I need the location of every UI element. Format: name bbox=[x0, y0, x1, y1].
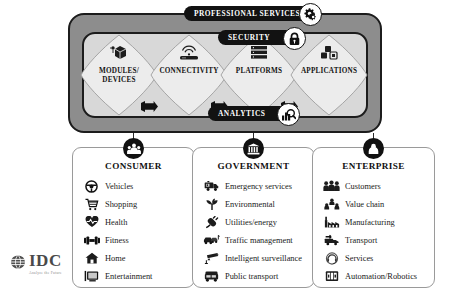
chip-cube-icon bbox=[80, 44, 158, 61]
item-label: Manufacturing bbox=[345, 218, 395, 227]
list-item[interactable]: Entertainment bbox=[73, 267, 194, 285]
item-label: Environmental bbox=[225, 200, 275, 209]
government-building-icon bbox=[243, 138, 264, 159]
hierarchy-people-icon bbox=[322, 197, 341, 212]
list-item[interactable]: Public transport bbox=[193, 267, 314, 285]
segment-box-enterprise[interactable]: ENTERPRISE Customers bbox=[312, 147, 435, 288]
item-label: Entertainment bbox=[105, 272, 152, 281]
list-item[interactable]: Automation/Robotics bbox=[313, 267, 434, 285]
item-label: Utilities/energy bbox=[225, 218, 277, 227]
factory-icon bbox=[322, 215, 341, 230]
item-label: Vehicles bbox=[105, 182, 133, 191]
item-label: Value chain bbox=[345, 200, 384, 209]
list-item[interactable]: Intelligent surveillance bbox=[193, 249, 314, 267]
list-item[interactable]: Emergency services bbox=[193, 177, 314, 195]
dumbbell-icon bbox=[82, 233, 101, 248]
group-people-icon bbox=[322, 179, 341, 194]
list-item[interactable]: Shopping bbox=[73, 195, 194, 213]
item-label: Fitness bbox=[105, 236, 129, 245]
item-label: Shopping bbox=[105, 200, 137, 209]
banner-analytics[interactable]: ANALYTICS bbox=[208, 106, 298, 121]
item-label: Services bbox=[345, 254, 373, 263]
list-item[interactable]: Utilities/energy bbox=[193, 213, 314, 231]
television-icon bbox=[82, 269, 101, 284]
power-plug-icon bbox=[202, 215, 221, 230]
segment-item-list: Customers Value chain bbox=[313, 171, 434, 285]
item-label: Emergency services bbox=[225, 182, 292, 191]
item-label: Intelligent surveillance bbox=[225, 254, 302, 263]
segment-item-list: Emergency services Environmental bbox=[193, 171, 314, 285]
item-label: Transport bbox=[345, 236, 377, 245]
item-label: Health bbox=[105, 218, 127, 227]
ambulance-icon bbox=[202, 179, 221, 194]
idc-logo: IDC Analyze the Future bbox=[10, 252, 62, 275]
banner-label: ANALYTICS bbox=[218, 109, 265, 118]
list-item[interactable]: Services bbox=[313, 249, 434, 267]
list-item[interactable]: Manufacturing bbox=[313, 213, 434, 231]
family-people-icon bbox=[123, 138, 144, 159]
item-label: Home bbox=[105, 254, 125, 263]
banner-label: PROFESSIONAL SERVICES bbox=[194, 9, 300, 18]
bus-icon bbox=[202, 269, 221, 284]
house-icon bbox=[82, 251, 101, 266]
list-item[interactable]: Environmental bbox=[193, 195, 314, 213]
idc-tagline: Analyze the Future bbox=[29, 271, 62, 275]
item-label: Automation/Robotics bbox=[345, 272, 417, 281]
list-item[interactable]: Customers bbox=[313, 177, 434, 195]
list-item[interactable]: Traffic management bbox=[193, 231, 314, 249]
heart-pulse-icon bbox=[82, 215, 101, 230]
padlock-icon bbox=[283, 27, 306, 50]
list-item[interactable]: Fitness bbox=[73, 231, 194, 249]
chart-magnifier-icon bbox=[277, 103, 300, 126]
idc-wordmark: IDC bbox=[29, 251, 62, 270]
headset-support-icon bbox=[322, 251, 341, 266]
banner-label: SECURITY bbox=[228, 33, 270, 42]
segment-box-government[interactable]: GOVERNMENT Emergency services bbox=[192, 147, 315, 288]
steering-wheel-icon bbox=[82, 179, 101, 194]
security-camera-icon bbox=[202, 251, 221, 266]
banner-security[interactable]: SECURITY bbox=[218, 30, 304, 45]
traffic-cars-icon bbox=[202, 233, 221, 248]
robot-icon bbox=[322, 269, 341, 284]
item-label: Customers bbox=[345, 182, 381, 191]
list-item[interactable]: Value chain bbox=[313, 195, 434, 213]
pillar-label: APPLICATIONS bbox=[286, 67, 372, 76]
item-label: Traffic management bbox=[225, 236, 293, 245]
item-label: Public transport bbox=[225, 272, 278, 281]
list-item[interactable]: Home bbox=[73, 249, 194, 267]
list-item[interactable]: Vehicles bbox=[73, 177, 194, 195]
diagram-canvas: MODULES/ DEVICES C bbox=[0, 0, 450, 295]
briefcase-person-icon bbox=[363, 138, 384, 159]
banner-professional-services[interactable]: PROFESSIONAL SERVICES bbox=[184, 6, 320, 21]
right-arrow-icon bbox=[141, 98, 158, 109]
list-item[interactable]: Transport bbox=[313, 231, 434, 249]
wifi-router-icon bbox=[150, 44, 228, 61]
idc-globe-icon bbox=[10, 252, 26, 270]
segment-item-list: Vehicles Shopping bbox=[73, 171, 194, 285]
plant-leaf-icon bbox=[202, 197, 221, 212]
list-item[interactable]: Health bbox=[73, 213, 194, 231]
segment-box-consumer[interactable]: CONSUMER Vehicles bbox=[72, 147, 195, 288]
delivery-truck-icon bbox=[322, 233, 341, 248]
shopping-cart-icon bbox=[82, 197, 101, 212]
gears-icon bbox=[299, 3, 322, 26]
